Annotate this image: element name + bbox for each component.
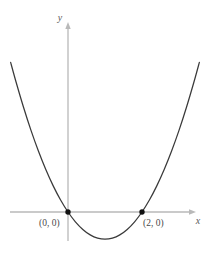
y-axis-label: y (57, 12, 63, 23)
point-label-origin: (0, 0) (39, 218, 60, 229)
point-marker-root-two (139, 209, 144, 214)
x-axis-label: x (195, 215, 201, 226)
y-axis-arrow-icon (65, 22, 70, 29)
plot-canvas: y x (0, 0) (2, 0) (0, 0, 212, 267)
point-marker-origin (65, 209, 70, 214)
parabola-curve (11, 62, 200, 239)
x-axis-arrow-icon (189, 209, 196, 214)
parabola-figure: y x (0, 0) (2, 0) (0, 0, 212, 267)
point-label-root-two: (2, 0) (143, 218, 164, 229)
